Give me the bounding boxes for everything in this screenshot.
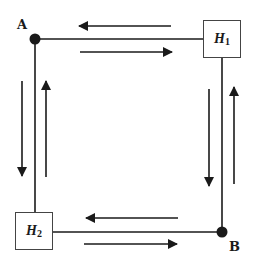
node-b-dot-icon — [217, 227, 228, 238]
circuit-diagram: A B H1 H2 — [0, 0, 254, 268]
node-h1-subscript: 1 — [225, 36, 230, 47]
node-h1-box: H1 — [203, 20, 241, 58]
node-a-dot-icon — [30, 34, 41, 45]
node-b-label: B — [229, 239, 240, 254]
node-h2-box: H2 — [15, 212, 53, 250]
node-h2-subscript: 2 — [37, 228, 42, 239]
node-h2-label: H — [26, 223, 37, 239]
node-h1-label: H — [214, 31, 225, 47]
node-a-label: A — [17, 17, 27, 32]
